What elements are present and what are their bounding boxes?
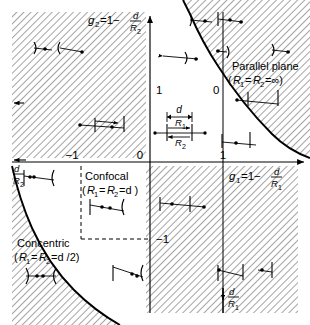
y-axis-title-den-sub: 2 bbox=[137, 28, 141, 35]
x-tick-label-1: 1 bbox=[220, 149, 226, 161]
legend-R2-sub: 2 bbox=[182, 143, 186, 150]
resonator-icon-q3-d bbox=[113, 265, 143, 281]
legend-R1-sub: 1 bbox=[182, 123, 186, 130]
annotation-parallel-plane-paren: ( bbox=[228, 74, 232, 86]
x-axis-title-g: g bbox=[229, 170, 236, 182]
stability-diagram-figure: −1 0 1 1 0 −1 g 2 =1− d R 2 d R 2 g 1 =1… bbox=[0, 0, 310, 325]
annotation-parallel-plane-R2-sub: 2 bbox=[260, 80, 264, 89]
y-axis-secondary-den: R bbox=[228, 298, 235, 309]
annotation-confocal-eq1: = bbox=[99, 184, 105, 196]
annotation-concentric-eq2: =d /2) bbox=[51, 251, 79, 263]
annotation-parallel-plane-eq1: = bbox=[245, 74, 251, 86]
x-axis-title-num: d bbox=[274, 166, 280, 177]
legend-R1-label: R bbox=[175, 117, 182, 128]
diagram-canvas: −1 0 1 1 0 −1 g 2 =1− d R 2 d R 2 g 1 =1… bbox=[0, 0, 310, 325]
y-axis-secondary-den-sub: 1 bbox=[235, 304, 239, 311]
annotation-confocal-R1-sub: 1 bbox=[94, 190, 98, 199]
annotation-concentric-eq1: = bbox=[31, 251, 37, 263]
y-tick-label-0: 0 bbox=[213, 84, 219, 96]
x-axis-title-den-sub: 1 bbox=[278, 184, 282, 191]
y-tick-label-1: 1 bbox=[156, 84, 162, 96]
resonator-icon-q1-g bbox=[222, 132, 256, 148]
x-tick-label-neg1: −1 bbox=[65, 149, 78, 161]
annotation-concentric-paren: ( bbox=[14, 251, 18, 263]
annotation-confocal: Confocal ( R 1 = R 2 =d ) bbox=[82, 170, 138, 199]
annotation-concentric-R1-sub: 1 bbox=[26, 257, 30, 266]
annotation-parallel-plane-R1-sub: 1 bbox=[240, 80, 244, 89]
annotation-parallel-plane-line1: Parallel plane bbox=[232, 60, 299, 72]
y-axis-secondary-num: d bbox=[229, 286, 235, 297]
annotation-confocal-eq2: =d ) bbox=[119, 184, 138, 196]
y-axis-title-num: d bbox=[133, 10, 139, 21]
annotation-parallel-plane-eq2: =∞) bbox=[265, 74, 283, 86]
annotation-concentric-R2-sub: 2 bbox=[46, 257, 50, 266]
annotation-concentric: Concentric ( R 1 = R 2 =d /2) bbox=[14, 237, 79, 266]
annotation-confocal-line1: Confocal bbox=[85, 170, 128, 182]
x-axis-secondary-num: d bbox=[14, 163, 20, 174]
y-tick-label-neg1: −1 bbox=[156, 233, 169, 245]
annotation-concentric-line1: Concentric bbox=[17, 237, 70, 249]
x-tick-label-0: 0 bbox=[137, 149, 143, 161]
x-axis-title-den: R bbox=[271, 178, 278, 189]
annotation-confocal-paren: ( bbox=[82, 184, 86, 196]
y-axis-title-eq: =1− bbox=[100, 14, 120, 26]
y-axis-title-g: g bbox=[88, 14, 95, 26]
legend-d-label: d bbox=[176, 104, 182, 115]
y-axis-title-den: R bbox=[130, 22, 137, 33]
legend-resonator-schematic: d R 1 R 2 bbox=[153, 104, 206, 150]
x-axis-title-eq: =1− bbox=[241, 170, 261, 182]
unstable-region-quadrant-2 bbox=[12, 12, 146, 158]
resonator-icon-q1-c bbox=[163, 52, 198, 64]
x-axis-secondary-den: R bbox=[13, 175, 20, 186]
x-axis-secondary-den-sub: 2 bbox=[20, 181, 24, 188]
legend-R2-label: R bbox=[175, 137, 182, 148]
x-axis-secondary-label: d R 2 bbox=[13, 163, 24, 188]
resonator-icon-q3-b bbox=[90, 199, 124, 215]
resonator-icon-q3-a bbox=[24, 170, 54, 186]
annotation-confocal-R2-sub: 2 bbox=[114, 190, 118, 199]
